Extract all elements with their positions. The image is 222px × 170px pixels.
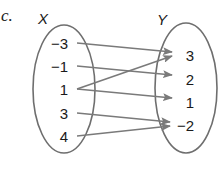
mapping-arrow (77, 66, 172, 75)
domain-element: −3 (51, 35, 68, 52)
mapping-arrow (77, 89, 172, 98)
mapping-arrow (77, 43, 172, 52)
mapping-diagram: c. X Y −3 −1 1 3 4 3 2 1 −2 (0, 0, 222, 170)
part-label: c. (1, 6, 13, 25)
domain-set-name: X (37, 10, 49, 27)
range-element: 2 (186, 71, 194, 88)
range-element: 1 (186, 94, 194, 111)
domain-element: 1 (60, 81, 68, 98)
mapping-arrow (77, 126, 170, 136)
range-element: 3 (186, 47, 194, 64)
range-set-name: Y (157, 11, 168, 28)
range-element: −2 (177, 117, 194, 134)
domain-element: −1 (51, 58, 68, 75)
domain-element: 4 (60, 128, 68, 145)
domain-element: 3 (60, 105, 68, 122)
